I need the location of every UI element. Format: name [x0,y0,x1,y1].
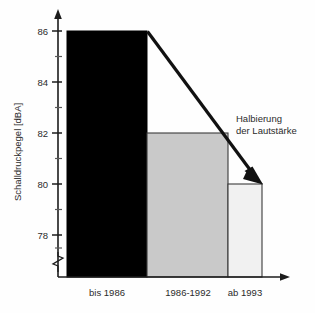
y-axis-title: Schalldruckpegel [dBA] [12,103,23,201]
y-tick-label-80: 80 [37,179,48,190]
annotation-line-2: der Lautstärke [236,125,297,136]
bar-ab-1993 [228,184,262,277]
bar-bis-1986 [67,31,147,277]
bar-1986-1992 [147,133,228,277]
y-axis [54,9,62,277]
y-tick-label-86: 86 [37,26,48,37]
annotation-line-1: Halbierung [236,113,282,124]
bar-chart: 86 84 82 80 78 Schalldruckpegel [dBA] bi… [0,0,315,313]
bars-group [67,31,262,277]
y-tick-label-82: 82 [37,128,48,139]
chart-container: 86 84 82 80 78 Schalldruckpegel [dBA] bi… [0,0,315,313]
y-tick-label-78: 78 [37,230,48,241]
x-axis-arrowhead [280,273,290,281]
y-axis-arrowhead [54,9,62,19]
y-tick-label-84: 84 [37,77,48,88]
x-tick-label-1986-1992: 1986-1992 [165,287,210,298]
x-tick-label-ab-1993: ab 1993 [228,287,262,298]
y-major-ticks [52,31,62,235]
x-tick-label-bis-1986: bis 1986 [89,287,125,298]
